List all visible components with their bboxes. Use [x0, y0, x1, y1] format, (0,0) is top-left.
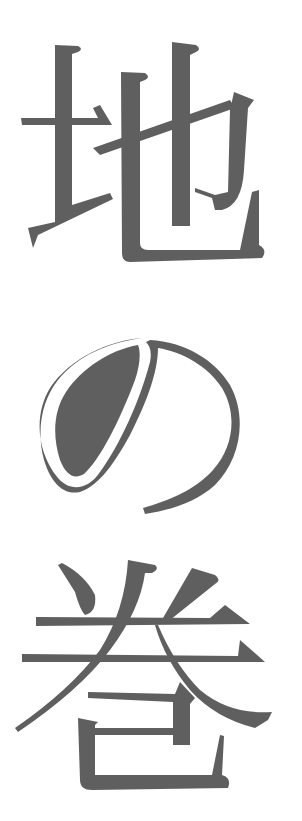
glyph-no-shape: [0, 300, 302, 540]
vertical-title: 地 の 巻: [0, 0, 302, 821]
glyph-chi-shape: [0, 0, 302, 280]
glyph-maki-shape: [0, 540, 302, 821]
glyph-no: の: [0, 300, 302, 540]
glyph-maki: 巻: [0, 540, 302, 821]
glyph-chi: 地: [0, 0, 302, 280]
